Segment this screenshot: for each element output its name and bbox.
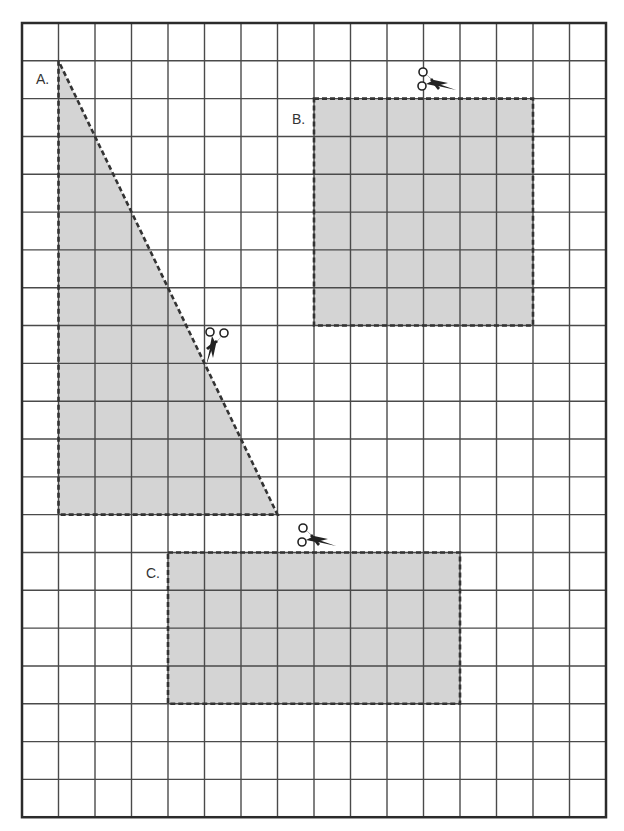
scissors-icon-a bbox=[198, 326, 230, 370]
label-a: A. bbox=[36, 72, 49, 86]
grid-diagram bbox=[0, 0, 624, 831]
scissors-icon-b bbox=[416, 66, 460, 98]
label-b: B. bbox=[292, 112, 305, 126]
scissors-icon-c bbox=[296, 522, 340, 554]
shape-fills bbox=[59, 61, 534, 704]
label-c: C. bbox=[146, 566, 160, 580]
